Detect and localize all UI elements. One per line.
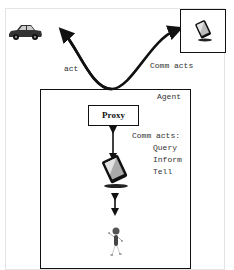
comm-acts-list-title: Comm acts: <box>132 132 180 140</box>
tablet-icon <box>100 154 132 190</box>
person-icon <box>106 226 126 258</box>
comm-act-query: Query <box>153 144 177 152</box>
comm-act-tell: Tell <box>153 168 172 176</box>
comm-act-inform: Inform <box>153 156 182 164</box>
